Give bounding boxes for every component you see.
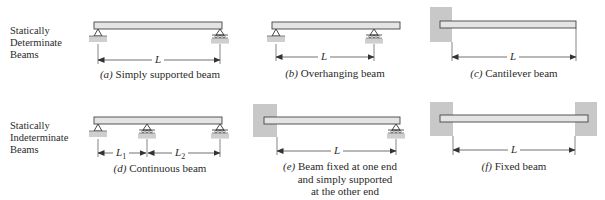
dim-subscript: 2	[181, 152, 185, 161]
caption-e: (e) Beam fixed at one end and simply sup…	[275, 160, 405, 198]
caption-text: Continuous beam	[129, 162, 206, 174]
caption-tag: (f)	[482, 160, 492, 172]
caption-tag: (e)	[283, 160, 295, 172]
caption-text: Beam fixed at one end	[298, 160, 397, 172]
caption-tag: (b)	[285, 67, 298, 79]
beam-a	[94, 22, 222, 29]
caption-text: Cantilever beam	[485, 67, 557, 79]
caption-text: at the other end	[275, 185, 405, 198]
caption-a: (a) Simply supported beam	[98, 68, 222, 80]
roller-support-icon	[387, 124, 405, 139]
caption-text: and simply supported	[275, 173, 405, 186]
caption-c: (c) Cantilever beam	[452, 67, 576, 79]
roller-support-icon	[365, 29, 383, 44]
caption-text: Overhanging beam	[301, 67, 385, 79]
caption-text: Simply supported beam	[116, 68, 221, 80]
caption-text: Fixed beam	[495, 160, 547, 172]
dim-label-f: L	[508, 144, 520, 155]
pin-support-icon	[89, 29, 107, 42]
beam-b-overhanging	[267, 22, 400, 61]
dim-subscript: 1	[122, 152, 126, 161]
beam-e-fixed-simply-supported	[253, 104, 405, 155]
dim-label-d1: L1	[113, 147, 129, 162]
caption-f: (f) Fixed beam	[453, 160, 575, 172]
caption-tag: (a)	[100, 68, 113, 80]
dim-label-e: L	[331, 145, 343, 156]
dim-label-b: L	[318, 51, 330, 62]
roller-support-icon	[211, 124, 229, 139]
pin-support-icon	[89, 124, 107, 137]
dim-label-d2: L2	[172, 147, 188, 162]
dim-label-c: L	[507, 51, 519, 62]
pin-support-icon	[267, 29, 285, 42]
dim-label-a: L	[152, 54, 164, 65]
roller-support-icon	[211, 29, 229, 44]
roller-support-icon	[138, 124, 156, 139]
beam-c-cantilever	[430, 7, 576, 61]
caption-d: (d) Continuous beam	[98, 162, 222, 174]
caption-tag: (d)	[114, 162, 127, 174]
caption-b: (b) Overhanging beam	[280, 67, 390, 79]
caption-tag: (c)	[470, 67, 482, 79]
beam-d-continuous	[89, 117, 229, 157]
